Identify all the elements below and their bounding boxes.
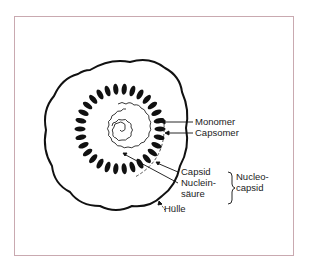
capsomer-blob <box>141 93 152 105</box>
capsomer-blob <box>141 153 152 165</box>
label-nucleocapsid-line2: capsid <box>236 183 263 193</box>
label-nucleocapsid-line1: Nucleo- <box>236 172 269 182</box>
capsomer-ring <box>75 83 166 174</box>
capsomer-blob <box>135 88 145 100</box>
capsomer-blob <box>75 117 87 124</box>
capsomer-blob <box>121 83 127 94</box>
capsomer-blob <box>82 147 94 158</box>
capsomer-blob <box>75 126 86 131</box>
capsomer-blob <box>113 163 119 174</box>
capsomer-blob <box>75 134 87 141</box>
virus-diagram <box>0 0 309 264</box>
capsomer-blob <box>77 141 89 150</box>
capsomer-blob <box>150 108 162 117</box>
capsomer-blob <box>121 163 127 174</box>
capsomer-blob <box>146 147 158 158</box>
label-capsid: Capsid <box>181 167 211 177</box>
label-capsomer: Capsomer <box>195 128 239 138</box>
capsomer-blob <box>88 153 99 165</box>
capsomer-blob <box>128 161 136 173</box>
capsomer-blob <box>128 85 136 97</box>
capsomer-blob <box>95 158 105 170</box>
capsomer-blob <box>135 158 145 170</box>
label-envelope: Hülle <box>164 204 186 214</box>
capsomer-blob <box>103 85 111 97</box>
label-nucleic-acid-line2: säure <box>181 189 205 199</box>
capsomer-blob <box>113 83 119 94</box>
capsomer-blob <box>103 161 111 173</box>
capsomer-blob <box>150 141 162 150</box>
nucleic-acid-inner-coil <box>112 119 133 140</box>
capsomer-blob <box>77 108 89 117</box>
label-nucleic-acid-line1: Nuclein- <box>181 178 216 188</box>
capsomer-blob <box>146 100 158 111</box>
capsomer-blob <box>88 93 99 105</box>
envelope-outline <box>45 60 187 210</box>
capsomer-blob <box>95 88 105 100</box>
capsomer-blob <box>82 100 94 111</box>
label-monomer: Monomer <box>195 117 235 127</box>
